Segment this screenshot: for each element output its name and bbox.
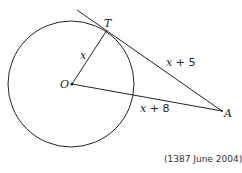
center-point-O [71, 83, 74, 86]
point-A-dot [221, 110, 223, 112]
label-OT-length: x [80, 49, 87, 62]
citation: (1387 June 2004) [164, 154, 242, 164]
label-TA-length: x + 5 [166, 56, 195, 69]
label-OA-rest: + 8 [146, 102, 169, 115]
label-O: O [60, 78, 69, 91]
label-T: T [104, 17, 113, 30]
radius-OT [72, 30, 107, 84]
geometry-diagram: T O A x x + 5 x + 8 (1387 June 2004) [0, 0, 242, 173]
label-TA-rest: + 5 [172, 56, 195, 69]
tangent-line-TA [77, 10, 222, 111]
label-OA-length: x + 8 [140, 102, 169, 115]
label-A: A [223, 107, 232, 120]
